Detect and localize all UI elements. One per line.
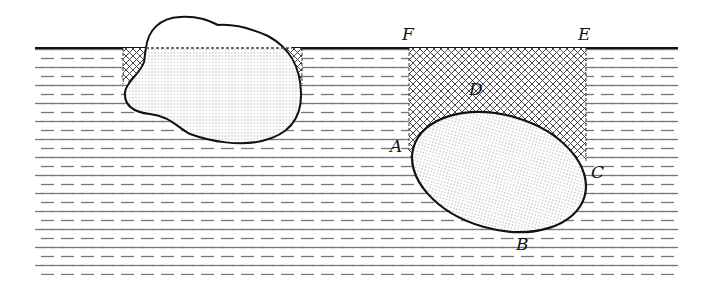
label-D: D [468, 79, 483, 99]
label-C: C [591, 162, 604, 182]
label-E: E [577, 24, 591, 44]
label-B: B [515, 234, 529, 254]
label-F: F [401, 24, 415, 44]
buoyancy-diagram: F E D A C B [0, 0, 710, 287]
label-A: A [388, 136, 402, 156]
